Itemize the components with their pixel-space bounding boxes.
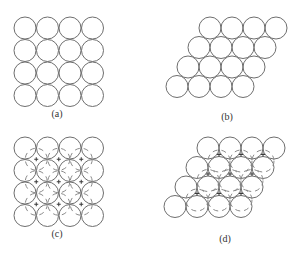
circle [37, 205, 59, 227]
circle [59, 40, 81, 62]
panel-a-label: (a) [51, 108, 62, 119]
circle [232, 37, 254, 59]
circle [59, 182, 81, 204]
circle [263, 137, 285, 159]
circle [188, 76, 210, 98]
circle [252, 157, 274, 179]
circle [230, 196, 252, 218]
circle [219, 176, 241, 198]
packing-diagram [0, 0, 302, 256]
circle [186, 157, 208, 179]
circle [221, 17, 243, 39]
circle [59, 85, 81, 107]
circle [59, 137, 81, 159]
circle [254, 37, 276, 59]
circle [219, 137, 241, 159]
circle [230, 157, 252, 179]
circle [188, 37, 210, 59]
circle [197, 137, 219, 159]
circle [210, 37, 232, 59]
circle [59, 160, 81, 182]
circle [199, 17, 221, 39]
circle [37, 17, 59, 39]
circle [82, 137, 104, 159]
panel-a-square-packing [14, 17, 104, 107]
circle [82, 205, 104, 227]
circle [241, 176, 263, 198]
circle [14, 17, 36, 39]
circle [210, 76, 232, 98]
circle [221, 56, 243, 78]
circle [14, 85, 36, 107]
circle [243, 17, 265, 39]
circle [175, 176, 197, 198]
panel-c-label: (c) [51, 228, 62, 239]
circle [82, 62, 104, 84]
circle [164, 196, 186, 218]
panel-b-label: (b) [221, 111, 233, 122]
panel-d-hex-two-layers [164, 137, 285, 218]
circle [14, 62, 36, 84]
circle [14, 182, 36, 204]
circle [265, 17, 287, 39]
circle [199, 56, 221, 78]
circle [14, 40, 36, 62]
circle [197, 176, 219, 198]
panel-c-square-two-layers [14, 137, 104, 227]
circle [37, 62, 59, 84]
circle [14, 205, 36, 227]
circle [243, 56, 265, 78]
circle [232, 76, 254, 98]
circle [177, 56, 199, 78]
circle [14, 160, 36, 182]
circle [241, 137, 263, 159]
circle [82, 160, 104, 182]
panel-d-label: (d) [219, 233, 231, 244]
circle [82, 85, 104, 107]
circle [37, 182, 59, 204]
circle [59, 205, 81, 227]
circle [59, 17, 81, 39]
circle [82, 40, 104, 62]
circle [82, 17, 104, 39]
circle [37, 160, 59, 182]
circle [208, 196, 230, 218]
circle [37, 40, 59, 62]
circle [186, 196, 208, 218]
circle [166, 76, 188, 98]
circle [37, 85, 59, 107]
circle [37, 137, 59, 159]
circle [14, 137, 36, 159]
panel-b-hex-packing [166, 17, 287, 98]
circle [82, 182, 104, 204]
circle [208, 157, 230, 179]
circle [59, 62, 81, 84]
